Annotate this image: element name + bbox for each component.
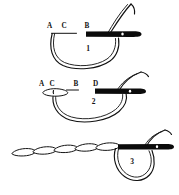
diagram-canvas: A C B 1 A (0, 0, 179, 195)
needle-tip-hook-2 (141, 72, 149, 77)
needle-curve-outer-2 (119, 72, 141, 91)
panel-1-needle-group (86, 4, 142, 37)
panel-2-step-number: 2 (92, 97, 96, 106)
chain-stitch-4 (75, 144, 99, 151)
chain-stitch-3 (54, 145, 78, 152)
needle-shaft-2 (95, 88, 146, 94)
chain-stitch-diagram: A C B 1 A (0, 0, 179, 195)
panel-2-needle-group (95, 72, 149, 94)
panel-2: A C B D 2 (39, 72, 149, 122)
needle-tip-hook-3 (165, 130, 172, 135)
thread-loop-outer (51, 34, 119, 69)
panel-1-label-a: A (47, 22, 53, 30)
thread-loop-inner-2 (56, 93, 123, 119)
panel-3: 3 (12, 130, 174, 181)
thread-loop-outer-2 (53, 93, 127, 122)
panel-2-label-c: C (49, 80, 54, 88)
panel-2-label-a: A (39, 80, 45, 88)
needle-curve-inner (108, 5, 128, 34)
panel-3-needle-group (118, 130, 174, 150)
needle-eye (121, 33, 124, 36)
panel-1-step-number: 1 (86, 44, 90, 53)
needle-tip-hook (131, 4, 135, 14)
needle-eye-2 (129, 90, 131, 93)
completed-chain-row (12, 143, 120, 156)
needle-eye-3 (156, 145, 158, 148)
needle-shaft (86, 31, 142, 37)
chain-stitch-first (43, 89, 68, 97)
panel-2-label-b: B (74, 80, 79, 88)
working-loop-inner (118, 149, 152, 177)
panel-2-label-d: D (93, 80, 98, 88)
panel-3-step-number: 3 (130, 157, 134, 166)
thread-loop-inner (53, 34, 115, 66)
needle-curve-outer (110, 4, 131, 34)
needle-shaft-3 (118, 144, 174, 150)
panel-1-label-b: B (85, 22, 90, 30)
panel-1-label-c: C (61, 22, 66, 30)
panel-1: A C B 1 (47, 4, 142, 69)
chain-stitch-1 (12, 149, 36, 156)
chain-stitch-2 (33, 147, 57, 154)
working-loop-outer (114, 149, 154, 181)
